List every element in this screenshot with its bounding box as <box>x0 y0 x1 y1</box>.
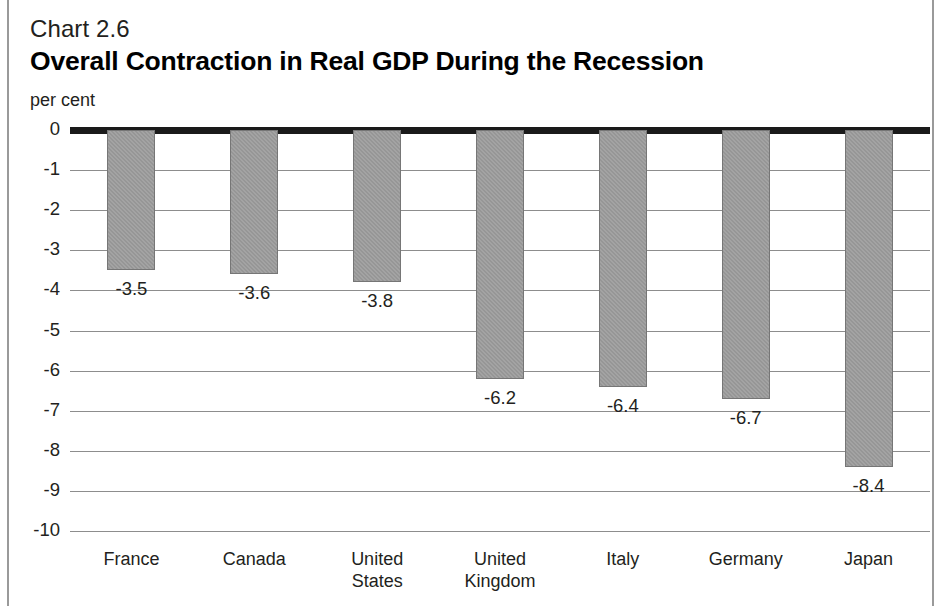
x-axis-category-label: France <box>61 548 201 570</box>
y-axis-tick-label: -1 <box>0 160 60 179</box>
bar-value-label: -3.6 <box>204 284 304 303</box>
y-axis-tick-label: -5 <box>0 321 60 340</box>
y-axis-tick-label: -8 <box>0 441 60 460</box>
y-axis-tick-label: -4 <box>0 280 60 299</box>
bar-value-label: -6.7 <box>696 409 796 428</box>
bar <box>476 130 524 379</box>
bar <box>722 130 770 399</box>
y-axis-tick-label: -6 <box>0 361 60 380</box>
x-axis-category-label: Germany <box>676 548 816 570</box>
bar <box>107 130 155 270</box>
x-axis-category-label: Japan <box>799 548 939 570</box>
bar-value-label: -3.5 <box>81 280 181 299</box>
bar-value-label: -6.2 <box>450 389 550 408</box>
bar <box>353 130 401 282</box>
x-axis-category-label: Italy <box>553 548 693 570</box>
y-axis-tick-label: -10 <box>0 521 60 540</box>
bar <box>845 130 893 467</box>
x-axis-category-label: United Kingdom <box>430 548 570 592</box>
y-axis-tick-label: -7 <box>0 401 60 420</box>
plot-area: 0-1-2-3-4-5-6-7-8-9-10-3.5France-3.6Cana… <box>0 0 941 606</box>
gridline <box>70 491 930 492</box>
y-axis-tick-label: -9 <box>0 481 60 500</box>
bar-value-label: -8.4 <box>819 477 919 496</box>
gridline <box>70 531 930 532</box>
bar-value-label: -3.8 <box>327 292 427 311</box>
y-axis-tick-label: 0 <box>0 120 60 139</box>
x-axis-category-label: Canada <box>184 548 324 570</box>
x-axis-category-label: United States <box>307 548 447 592</box>
chart-figure: Chart 2.6 Overall Contraction in Real GD… <box>0 0 941 606</box>
gridline <box>70 411 930 412</box>
bar <box>599 130 647 387</box>
bar <box>230 130 278 274</box>
y-axis-tick-label: -3 <box>0 240 60 259</box>
y-axis-tick-label: -2 <box>0 200 60 219</box>
gridline <box>70 451 930 452</box>
bar-value-label: -6.4 <box>573 397 673 416</box>
